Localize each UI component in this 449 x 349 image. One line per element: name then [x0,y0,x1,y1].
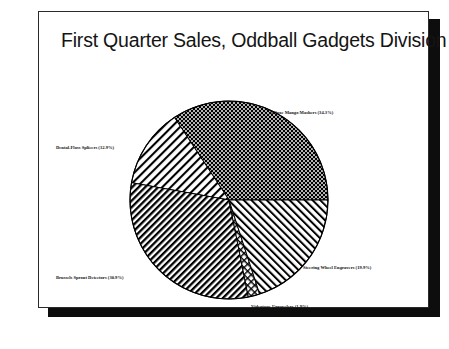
pie-label-steering-wheel-engravers: Steering Wheel Engravers (19.9%) [303,265,371,270]
pie-label-dental-floss-splicers: Dental-Floss Splicers (12.9%) [56,145,114,150]
pie-chart: Deluxe Mango Mashers (34.3%) Steering Wh… [39,12,430,309]
pie-label-brussels-sprout-detectors: Brussels Sprout Detectors (30.9%) [56,275,124,280]
pie-label-deluxe-mango-mashers: Deluxe Mango Mashers (34.3%) [270,110,333,115]
presentation-slide-screenshot: First Quarter Sales, Oddball Gadgets Div… [0,0,449,349]
pie-chart-svg [39,12,430,309]
slide-panel: First Quarter Sales, Oddball Gadgets Div… [38,11,429,308]
pie-label-videotape-unravelers: Videotape Unravelers (1.9%) [251,304,308,309]
